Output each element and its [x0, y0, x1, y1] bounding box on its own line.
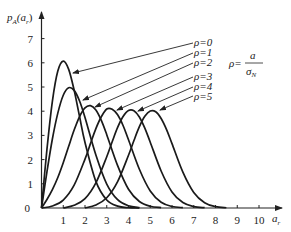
x-axis-title: ar — [272, 212, 281, 227]
x-tick-label: 10 — [254, 214, 266, 226]
legend-arrow — [160, 96, 193, 110]
y-tick-label: 0 — [25, 202, 31, 214]
x-tick-label: 5 — [148, 214, 154, 226]
rician-pdf-chart: 12345678910 01234567 pA(ar) ar ρ=0ρ=1ρ=2… — [0, 0, 291, 232]
y-tick-label: 6 — [28, 57, 34, 69]
formula-numerator: a — [250, 49, 256, 61]
x-tick-label: 8 — [213, 214, 219, 226]
x-tick-label: 4 — [126, 214, 132, 226]
formula-denominator: σN — [246, 65, 256, 79]
x-tick-label: 2 — [82, 214, 88, 226]
formula-lhs: ρ= — [228, 57, 242, 69]
y-tick-label: 5 — [28, 81, 34, 93]
legend-label-rho-5: ρ=5 — [193, 90, 213, 102]
legend-arrow — [73, 43, 193, 73]
y-tick-label: 1 — [28, 178, 34, 190]
x-tick-label: 3 — [104, 214, 110, 226]
legend-arrow — [95, 63, 193, 107]
y-tick-label: 2 — [28, 154, 34, 166]
x-tick-label: 6 — [169, 214, 175, 226]
legend-arrow — [117, 77, 193, 110]
x-tick-label: 7 — [191, 214, 197, 226]
x-tick-label: 1 — [61, 214, 67, 226]
y-tick-label: 3 — [28, 129, 34, 141]
y-tick-label: 7 — [28, 33, 34, 45]
legend-label-rho-2: ρ=2 — [193, 56, 213, 68]
legend-arrow — [83, 53, 193, 100]
rho-formula: ρ= a σN — [228, 49, 263, 79]
legend-labels: ρ=0ρ=1ρ=2ρ=3ρ=4ρ=5 — [193, 36, 213, 102]
legend-arrows — [73, 43, 193, 111]
y-axis-title: pA(ar) — [6, 11, 33, 26]
x-tick-label: 9 — [235, 214, 241, 226]
y-tick-label: 4 — [28, 105, 34, 117]
